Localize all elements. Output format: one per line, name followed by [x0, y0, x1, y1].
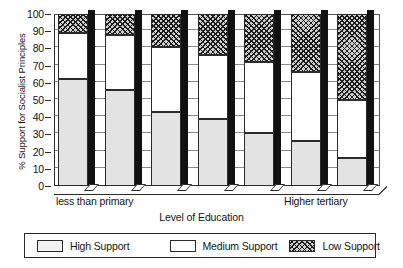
y-tick-label-80: 80 — [33, 42, 44, 54]
bar-3d-side-4 — [228, 10, 235, 186]
y-tick-label-60: 60 — [33, 77, 44, 89]
bar-segment-medium-support-6 — [291, 72, 321, 141]
bar-segment-medium-support-5 — [244, 62, 274, 133]
y-tick-mark-100 — [45, 14, 51, 15]
y-tick-mark-60 — [45, 83, 51, 84]
x-axis-3d-edge-icon — [54, 186, 388, 195]
bar-segment-high-support-6 — [291, 141, 321, 186]
y-tick-label-0: 0 — [38, 180, 44, 192]
legend-label-low-support: Low Support — [322, 240, 379, 252]
bar-segment-high-support-1 — [58, 79, 88, 186]
bar-stack-4[interactable] — [198, 14, 228, 186]
y-tick-label-90: 90 — [33, 25, 44, 37]
legend-swatch-high-support-icon — [37, 240, 63, 252]
x-axis-label-last: Higher tertiary — [284, 195, 348, 207]
x-axis-title: Level of Education — [0, 211, 403, 223]
y-tick-mark-40 — [45, 117, 51, 118]
bar-3d-side-2 — [135, 10, 142, 186]
bar-segment-high-support-7 — [337, 158, 367, 186]
bar-stack-1[interactable] — [58, 14, 88, 186]
bar-stack-7[interactable] — [337, 14, 367, 186]
bar-3d-side-7 — [367, 10, 374, 186]
bar-segment-low-support-4 — [198, 14, 228, 55]
x-axis-label-first: less than primary — [56, 195, 133, 207]
x-axis-base — [54, 186, 388, 195]
y-tick-label-100: 100 — [27, 8, 44, 20]
bar-3d-side-5 — [274, 10, 281, 186]
bar-segment-low-support-2 — [105, 14, 135, 35]
legend-swatch-medium-support-icon — [170, 240, 196, 252]
y-tick-label-50: 50 — [33, 94, 44, 106]
legend: High Support Medium Support Low Support — [24, 233, 376, 258]
bar-3d-side-1 — [88, 10, 95, 186]
chart-figure: % Support for Socialist Principles 01020… — [0, 0, 403, 268]
plot-area — [54, 14, 380, 186]
bar-segment-low-support-3 — [151, 14, 181, 47]
bar-segment-medium-support-3 — [151, 47, 181, 112]
bar-segment-medium-support-1 — [58, 33, 88, 79]
bar-stack-3[interactable] — [151, 14, 181, 186]
y-tick-mark-30 — [45, 134, 51, 135]
bar-segment-high-support-2 — [105, 90, 135, 186]
y-tick-mark-50 — [45, 100, 51, 101]
y-tick-mark-10 — [45, 169, 51, 170]
bar-segment-medium-support-4 — [198, 55, 228, 119]
y-tick-label-10: 10 — [33, 163, 44, 175]
bar-segment-high-support-3 — [151, 112, 181, 186]
bar-segment-low-support-6 — [291, 14, 321, 72]
legend-label-high-support: High Support — [70, 240, 130, 252]
y-tick-label-40: 40 — [33, 111, 44, 123]
bar-3d-side-6 — [321, 10, 328, 186]
bar-segment-high-support-5 — [244, 133, 274, 186]
y-tick-mark-0 — [45, 186, 51, 187]
legend-item-low-support[interactable]: Low Support — [289, 234, 379, 257]
bar-stack-6[interactable] — [291, 14, 321, 186]
y-tick-mark-90 — [45, 31, 51, 32]
bar-segment-high-support-4 — [198, 119, 228, 186]
bar-segment-low-support-1 — [58, 14, 88, 33]
y-tick-mark-20 — [45, 152, 51, 153]
y-tick-mark-80 — [45, 48, 51, 49]
bar-stack-2[interactable] — [105, 14, 135, 186]
y-tick-mark-70 — [45, 66, 51, 67]
y-tick-label-70: 70 — [33, 60, 44, 72]
bar-segment-low-support-5 — [244, 14, 274, 62]
legend-swatch-low-support-icon — [289, 240, 315, 252]
legend-item-medium-support[interactable]: Medium Support — [170, 234, 278, 257]
legend-label-medium-support: Medium Support — [203, 240, 278, 252]
y-axis-tick-labels: 0102030405060708090100 — [0, 0, 54, 186]
bars-container — [54, 14, 380, 186]
y-tick-label-30: 30 — [33, 128, 44, 140]
bar-3d-side-3 — [181, 10, 188, 186]
bar-segment-low-support-7 — [337, 14, 367, 100]
bar-segment-medium-support-7 — [337, 100, 367, 158]
y-tick-label-20: 20 — [33, 146, 44, 158]
bar-segment-medium-support-2 — [105, 35, 135, 90]
legend-item-high-support[interactable]: High Support — [37, 234, 130, 257]
bar-stack-5[interactable] — [244, 14, 274, 186]
